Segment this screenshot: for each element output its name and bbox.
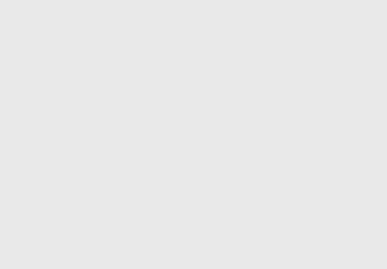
chart-container [0,0,387,269]
economy-stacked-area-chart [0,0,387,269]
